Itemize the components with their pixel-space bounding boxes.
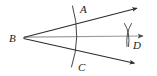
angle-bisector-diagram: B A C D bbox=[0, 0, 157, 76]
label-point-a: A bbox=[79, 3, 87, 15]
geometry-figure: B A C D bbox=[0, 0, 157, 76]
label-vertex-b: B bbox=[9, 32, 16, 44]
label-point-d: D bbox=[132, 39, 141, 51]
label-point-c: C bbox=[78, 61, 86, 73]
